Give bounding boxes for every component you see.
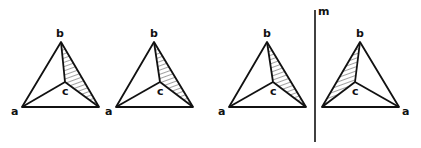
tetrahedron-3 (229, 42, 306, 107)
label-c-3: c (270, 86, 277, 97)
mirror-label: m (318, 6, 329, 17)
label-c-4: c (352, 86, 359, 97)
label-b-2: b (150, 28, 158, 39)
label-a-1: a (11, 106, 18, 117)
edge-a-c (22, 82, 65, 107)
label-b-3: b (263, 28, 271, 39)
label-a-2: a (105, 106, 112, 117)
label-a-3: a (218, 106, 225, 117)
label-b-1: b (56, 28, 64, 39)
tetrahedron-1 (22, 42, 99, 107)
label-c-2: c (157, 86, 164, 97)
tetrahedron-4-mirrored (322, 42, 399, 107)
label-c-1: c (62, 86, 69, 97)
label-b-4: b (356, 28, 364, 39)
tetrahedron-2 (116, 42, 193, 107)
label-a-4: a (402, 106, 409, 117)
diagram-canvas (0, 0, 421, 148)
